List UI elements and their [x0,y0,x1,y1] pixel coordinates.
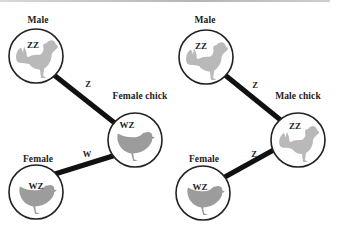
offspring-genotype: ZZ [289,121,301,131]
female-label: Female [189,154,219,164]
inheritance-diagram [0,0,338,243]
offspring-genotype: WZ [119,120,134,130]
allele-from-male: Z [252,80,258,90]
female-label: Female [23,154,53,164]
male-label: Male [28,15,49,25]
allele-from-female: W [83,149,92,159]
female-genotype: WZ [192,182,207,192]
allele-from-female: Z [251,149,257,159]
male-label: Male [195,15,216,25]
female-genotype: WZ [28,181,43,191]
offspring-label: Female chick [113,91,168,101]
offspring-label: Male chick [275,91,321,101]
male-genotype: ZZ [195,41,207,51]
male-genotype: ZZ [27,40,39,50]
allele-from-male: Z [85,79,91,89]
